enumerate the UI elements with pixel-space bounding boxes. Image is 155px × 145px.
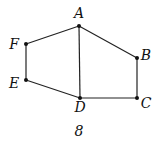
figure-caption: 8 (75, 123, 84, 139)
vertices (24, 24, 139, 100)
label-b: B (140, 47, 151, 63)
label-e: E (8, 75, 19, 91)
edges (26, 26, 137, 98)
edge-d-e (26, 80, 80, 98)
edge-a-d (79, 26, 80, 98)
vertex-f (24, 42, 28, 46)
label-a: A (72, 5, 84, 21)
vertex-e (24, 78, 28, 82)
vertex-c (135, 96, 139, 100)
edge-f-a (26, 26, 79, 44)
vertex-a (77, 24, 81, 28)
label-f: F (8, 36, 20, 52)
vertex-b (135, 56, 139, 60)
label-c: C (141, 95, 152, 111)
geometry-diagram: A B C D E F 8 (0, 0, 155, 145)
edge-a-b (79, 26, 137, 58)
label-d: D (73, 99, 85, 115)
